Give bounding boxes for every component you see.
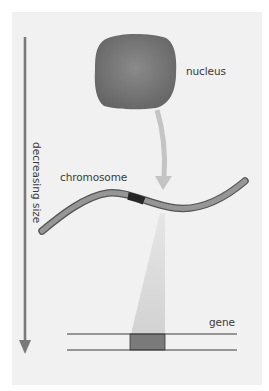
- decreasing-size-arrow: [19, 37, 31, 354]
- arrowhead-icon: [19, 340, 31, 354]
- zoom-cone-chromosome-to-gene: [131, 213, 165, 334]
- gene-dna: [67, 334, 237, 350]
- gene-label: gene: [209, 316, 235, 328]
- nucleus-label: nucleus: [186, 65, 226, 77]
- axis-label-decreasing-size: decreasing size: [31, 142, 43, 223]
- chromosome-label: chromosome: [60, 171, 127, 183]
- nucleus-shape: [95, 34, 177, 109]
- zoom-arrow-nucleus-to-chromosome: [155, 110, 172, 190]
- chromosome-gene-band: [128, 196, 144, 201]
- gene-segment: [130, 334, 165, 350]
- chromosome-shape: [42, 181, 245, 231]
